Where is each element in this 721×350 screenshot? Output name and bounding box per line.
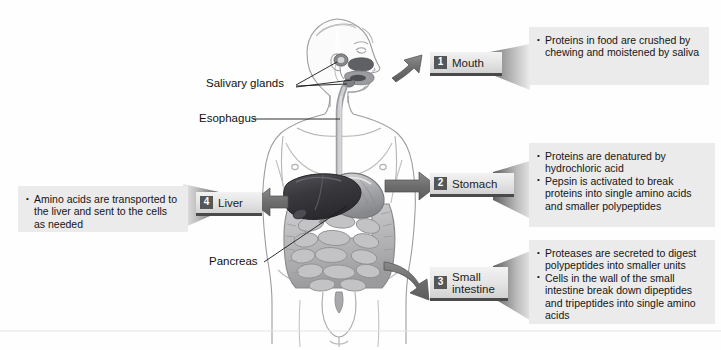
step-tab-liver[interactable]: 4 Liver [196, 192, 262, 216]
step-tab-small-intestine[interactable]: 3 Small intestine [430, 267, 508, 301]
info-panel-small-intestine: Proteases are secreted to digest polypep… [529, 240, 715, 324]
info-bullet: Amino acids are transported to the liver… [26, 193, 179, 230]
arrow-to-mouth [392, 55, 422, 82]
step-label: Mouth [452, 57, 484, 69]
intestines [284, 204, 395, 313]
info-bullet: Proteases are secreted to digest polypep… [537, 247, 706, 272]
anatomy-label-esophagus: Esophagus [199, 112, 257, 124]
info-bullet: Proteins are denatured by hydrochloric a… [537, 150, 706, 175]
anatomy-label-salivary-glands: Salivary glands [206, 77, 284, 89]
figure-canvas: 1 Mouth Proteins in food are crushed by … [0, 0, 721, 350]
info-panel-stomach: Proteins are denatured by hydrochloric a… [529, 143, 715, 227]
step-label: Stomach [452, 178, 497, 190]
step-number-badge: 2 [434, 177, 447, 190]
info-bullet: Pepsin is activated to break proteins in… [537, 175, 706, 212]
info-panel-mouth: Proteins in food are crushed by chewing … [529, 27, 709, 85]
step-number-badge: 3 [434, 276, 447, 289]
esophagus [339, 88, 344, 176]
step-number-badge: 1 [434, 56, 447, 69]
anatomy-label-pancreas: Pancreas [209, 255, 258, 267]
info-bullet: Proteins in food are crushed by chewing … [537, 34, 700, 59]
step-label: Liver [218, 197, 243, 209]
step-tab-stomach[interactable]: 2 Stomach [430, 173, 514, 197]
info-bullet: Cells in the wall of the small intestine… [537, 272, 706, 322]
info-panel-liver: Amino acids are transported to the liver… [18, 186, 188, 232]
step-tab-mouth[interactable]: 1 Mouth [430, 52, 502, 76]
step-label: Small intestine [452, 271, 495, 295]
step-number-badge: 4 [200, 196, 213, 209]
